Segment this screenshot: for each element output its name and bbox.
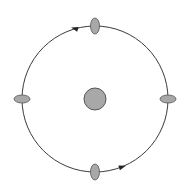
arrow-icon-top-left — [70, 25, 78, 32]
orbiting-body-right — [160, 95, 176, 103]
orbiting-body-bottom — [91, 164, 100, 180]
central-body — [84, 88, 106, 110]
orbit-diagram — [0, 0, 190, 192]
orbit-diagram-svg — [0, 0, 190, 192]
orbiting-body-left — [14, 95, 30, 103]
orbiting-body-top — [91, 18, 100, 34]
arrow-icon-bottom-right — [118, 163, 126, 170]
